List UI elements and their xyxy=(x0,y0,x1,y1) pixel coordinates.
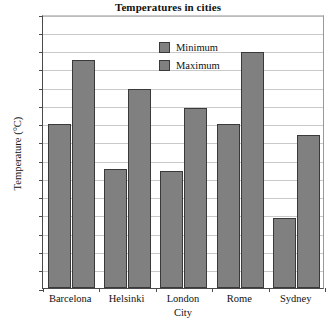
bar-minimum-helsinki xyxy=(104,169,127,288)
x-tick-mark xyxy=(156,288,157,292)
bar-minimum-london xyxy=(160,171,183,288)
bar-chart: Temperatures in cities Temperature (°C) … xyxy=(0,0,336,321)
bar-maximum-london xyxy=(184,108,207,288)
legend-swatch-icon xyxy=(159,60,170,71)
x-tick-label-barcelona: Barcelona xyxy=(42,293,98,305)
x-tick-label-london: London xyxy=(155,293,211,305)
x-tick-mark xyxy=(99,288,100,292)
x-axis-title: City xyxy=(42,307,324,319)
bar-minimum-rome xyxy=(217,124,240,288)
legend-label: Minimum xyxy=(176,42,218,53)
legend-item-minimum: Minimum xyxy=(159,39,255,55)
x-tick-mark xyxy=(43,288,44,292)
x-tick-label-helsinki: Helsinki xyxy=(98,293,154,305)
x-tick-mark xyxy=(212,288,213,292)
bar-group xyxy=(99,16,155,288)
chart-legend: MinimumMaximum xyxy=(159,39,255,75)
bar-group xyxy=(269,16,325,288)
bar-group xyxy=(43,16,99,288)
bar-maximum-sydney xyxy=(297,135,320,288)
y-axis-title: Temperature (°C) xyxy=(12,94,23,214)
plot-area: 024681012141618202224262830 MinimumMaxim… xyxy=(42,15,324,289)
chart-title: Temperatures in cities xyxy=(0,1,336,14)
x-tick-mark xyxy=(269,288,270,292)
bar-maximum-barcelona xyxy=(72,60,95,288)
bar-minimum-sydney xyxy=(273,218,296,288)
legend-item-maximum: Maximum xyxy=(159,57,255,73)
x-tick-mark xyxy=(325,288,326,292)
bar-maximum-rome xyxy=(241,52,264,288)
bar-minimum-barcelona xyxy=(48,124,71,288)
bar-maximum-helsinki xyxy=(128,89,151,288)
x-tick-label-rome: Rome xyxy=(211,293,267,305)
x-tick-label-sydney: Sydney xyxy=(268,293,324,305)
legend-swatch-icon xyxy=(159,42,170,53)
legend-label: Maximum xyxy=(176,60,220,71)
